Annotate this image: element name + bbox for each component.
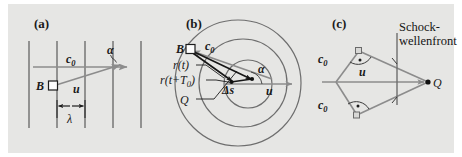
- panel-b-r-t-T0-vector: [190, 51, 232, 81]
- figure-container: (a) (b) (c): [0, 0, 462, 157]
- panel-c-source-point: [425, 79, 430, 84]
- panel-c-cone-edge-upper-right: [359, 51, 428, 82]
- panel-b-observer-marker: [186, 45, 195, 54]
- panel-b-group: B c0 r(t) r(t+T0) Q Δs u α: [160, 20, 301, 146]
- panel-a-label-u: u: [73, 82, 80, 96]
- panel-a-label-lambda: λ: [66, 112, 72, 126]
- panel-b-label-delta-s: Δs: [221, 83, 235, 97]
- panel-b-r-t-vector: [190, 50, 251, 79]
- panel-a-label-c0: c0: [66, 52, 76, 68]
- panel-c-label-c0-lower: c0: [318, 98, 328, 114]
- panel-b-label-B: B: [175, 42, 184, 56]
- panel-c-cone-edge-lower-left: [336, 82, 357, 115]
- panel-b-label-c0: c0: [205, 39, 215, 55]
- panel-c-right-angle-dot-upper: [359, 59, 362, 62]
- panel-c-right-angle-dot-lower: [357, 105, 360, 108]
- panel-c-node-lower: [354, 112, 360, 118]
- panel-a-label-alpha: α: [107, 43, 114, 57]
- panel-b-label-alpha: α: [258, 62, 265, 76]
- panel-a-source-marker: [49, 81, 58, 90]
- panel-b-delta-s-segment: [231, 79, 252, 82]
- panel-b-label-u: u: [266, 84, 273, 98]
- panel-c-cone-edge-upper-left: [336, 51, 359, 82]
- panel-a-u-arrow: [53, 65, 120, 86]
- panel-b-label-r-t: r(t): [173, 58, 189, 72]
- panel-b-label-r-t-T0: r(t+T0): [160, 73, 195, 89]
- panel-c-cone-edge-lower-right: [357, 82, 428, 115]
- panel-c-label-Q: Q: [433, 76, 442, 90]
- panel-c-label-shockfront-line2: wellenfront: [399, 34, 457, 48]
- panel-a-label-B: B: [35, 79, 44, 93]
- panel-c-label-shockfront-line1: Schock-: [399, 20, 440, 34]
- panel-a-group: c0 B u α λ: [29, 41, 141, 128]
- panel-c-node-upper: [356, 48, 362, 54]
- panel-c-front-angle-tick-upper: [392, 58, 397, 64]
- panel-c-label-c0-upper: c0: [318, 52, 328, 68]
- panel-c-group: c0 c0 u Q Schock- wellenfront: [318, 20, 457, 118]
- panel-b-label-Q: Q: [180, 93, 189, 107]
- panel-b-point-later: [250, 77, 254, 81]
- panel-c-label-u: u: [359, 65, 366, 79]
- diagram-drawing-layer: c0 B u α λ: [0, 0, 462, 157]
